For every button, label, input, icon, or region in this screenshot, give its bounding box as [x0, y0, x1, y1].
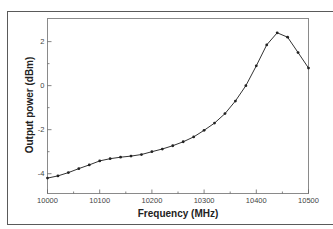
- data-point-marker: [57, 174, 60, 177]
- output-power-line: [48, 33, 309, 178]
- y-tick-label: -2: [38, 125, 45, 134]
- y-tick-label: 2: [40, 37, 44, 46]
- data-point-marker: [297, 51, 300, 54]
- data-point-marker: [46, 177, 49, 180]
- plot-area: [48, 19, 309, 194]
- data-point-marker: [161, 148, 164, 151]
- y-tick-label: -4: [38, 169, 45, 178]
- data-point-marker: [203, 129, 206, 132]
- y-axis: 20-2-4: [38, 37, 52, 178]
- data-point-marker: [307, 67, 310, 70]
- x-tick-label: 10100: [89, 196, 110, 205]
- data-point-marker: [286, 36, 289, 39]
- data-point-marker: [171, 144, 174, 147]
- data-point-marker: [130, 155, 133, 158]
- x-tick-label: 10300: [194, 196, 215, 205]
- x-axis-title: Frequency (MHz): [138, 208, 219, 219]
- y-tick-label: 0: [40, 81, 44, 90]
- data-point-marker: [192, 136, 195, 139]
- data-point-marker: [265, 44, 268, 47]
- data-point-marker: [151, 150, 154, 153]
- y-axis-title: Output power (dBm): [24, 57, 35, 154]
- data-point-marker: [140, 153, 143, 156]
- data-point-marker: [98, 160, 101, 163]
- x-tick-label: 10200: [141, 196, 162, 205]
- x-tick-label: 10400: [246, 196, 267, 205]
- data-point-marker: [255, 64, 258, 67]
- data-point-marker: [109, 157, 112, 160]
- data-point-marker: [244, 84, 247, 87]
- data-point-marker: [276, 31, 279, 34]
- x-axis: 100001010010200103001040010500: [37, 190, 319, 205]
- data-point-marker: [67, 171, 70, 174]
- x-tick-label: 10500: [298, 196, 319, 205]
- data-point-marker: [182, 140, 185, 143]
- chart-canvas: 100001010010200103001040010500 20-2-4 Fr…: [0, 0, 333, 229]
- x-tick-label: 10000: [37, 196, 58, 205]
- data-markers: [46, 31, 310, 179]
- outer-frame: [8, 12, 333, 225]
- data-point-marker: [234, 100, 237, 103]
- data-point-marker: [119, 156, 122, 159]
- data-point-marker: [88, 163, 91, 166]
- data-point-marker: [224, 112, 227, 115]
- data-point-marker: [213, 122, 216, 125]
- data-point-marker: [77, 167, 80, 170]
